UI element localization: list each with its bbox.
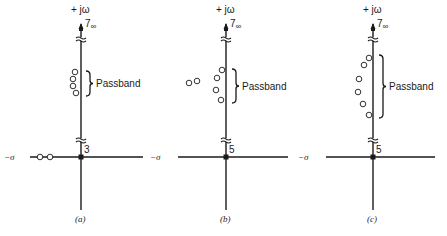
origin-order-label: 3	[84, 144, 90, 155]
zero-marker	[355, 89, 361, 95]
sigma-axis-label: −σ	[150, 152, 161, 162]
zero-marker	[73, 90, 79, 96]
zero-marker	[219, 67, 225, 73]
zero-marker	[72, 69, 78, 75]
sigma-axis-label: −σ	[298, 152, 309, 162]
jw-axis-label: + jω	[71, 4, 90, 15]
origin-pole-marker	[79, 155, 84, 160]
origin-pole-marker	[224, 155, 229, 160]
axis-break-icon	[76, 138, 86, 143]
panel-b: + jω7∞−σ5(b)Passband	[150, 4, 288, 224]
infinity-zeros-label: 7∞	[85, 18, 97, 31]
axis-break-icon	[221, 138, 231, 143]
sigma-axis-label: −σ	[4, 152, 15, 162]
zero-marker	[186, 80, 192, 86]
passband-label: Passband	[242, 81, 286, 92]
infinity-subscript: ∞	[383, 22, 389, 31]
axis-break-icon	[221, 37, 231, 42]
infinity-zero-marker	[79, 28, 83, 31]
zero-marker	[213, 87, 219, 93]
origin-pole-marker	[371, 155, 376, 160]
infinity-zero-marker	[224, 28, 228, 31]
origin-order-label: 5	[229, 144, 235, 155]
zero-marker	[194, 78, 200, 84]
axis-break-icon	[76, 37, 86, 42]
infinity-subscript: ∞	[236, 22, 242, 31]
panel-caption: (a)	[75, 214, 86, 224]
panel-caption: (c)	[367, 214, 377, 224]
axis-break-icon	[368, 37, 378, 42]
zero-marker	[218, 97, 224, 103]
jw-axis-label: + jω	[216, 4, 235, 15]
zero-marker	[366, 112, 372, 118]
passband-brace	[232, 69, 239, 103]
passband-brace	[86, 71, 93, 96]
zero-marker	[70, 76, 76, 82]
infinity-zeros-label: 7∞	[377, 18, 389, 31]
infinity-zeros-label: 7∞	[230, 18, 242, 31]
panel-a: + jω7∞−σ3(a)Passband	[4, 4, 143, 224]
zero-marker	[356, 76, 362, 82]
zero-marker	[361, 62, 367, 68]
infinity-subscript: ∞	[91, 22, 97, 31]
panel-caption: (b)	[220, 214, 231, 224]
pole-zero-figure: + jω7∞−σ3(a)Passband+ jω7∞−σ5(b)Passband…	[0, 0, 447, 236]
passband-label: Passband	[96, 78, 140, 89]
zero-marker	[214, 75, 220, 81]
panel-c: + jω7∞−σ5(c)Passband	[298, 4, 435, 224]
zero-marker	[360, 101, 366, 107]
zero-marker	[70, 83, 76, 89]
zero-marker	[47, 154, 53, 160]
axis-break-icon	[368, 138, 378, 143]
zero-marker	[366, 55, 372, 61]
origin-order-label: 5	[376, 144, 382, 155]
figure-svg: + jω7∞−σ3(a)Passband+ jω7∞−σ5(b)Passband…	[0, 0, 447, 236]
zero-marker	[37, 154, 43, 160]
passband-brace	[379, 55, 386, 118]
passband-label: Passband	[389, 81, 433, 92]
infinity-zero-marker	[371, 28, 375, 31]
jw-axis-label: + jω	[363, 4, 382, 15]
